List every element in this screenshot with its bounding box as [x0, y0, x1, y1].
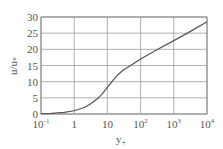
x-tick-label: 10 — [102, 118, 114, 130]
x-tick-label: 10-1 — [33, 117, 50, 130]
y-tick-label: 30 — [27, 11, 39, 23]
x-tick-label: 102 — [133, 117, 148, 130]
y-axis-label: u/u* — [7, 57, 21, 75]
x-tick-label: 103 — [167, 117, 182, 130]
x-axis-ticks: 10-1110102103104 — [33, 117, 215, 130]
x-tick-label: 1 — [71, 118, 77, 130]
velocity-profile-chart: 051015202530 10-1110102103104 u/u* y+ — [0, 0, 223, 149]
x-tick-label: 104 — [200, 117, 215, 130]
y-axis-ticks: 051015202530 — [27, 11, 39, 120]
y-tick-label: 20 — [27, 43, 39, 55]
x-axis-label: y+ — [116, 133, 127, 147]
y-tick-label: 5 — [33, 92, 39, 104]
y-tick-label: 15 — [27, 60, 39, 72]
y-tick-label: 25 — [27, 27, 39, 39]
grid-lines — [41, 17, 207, 114]
y-tick-label: 10 — [27, 76, 39, 88]
data-line — [41, 22, 207, 114]
